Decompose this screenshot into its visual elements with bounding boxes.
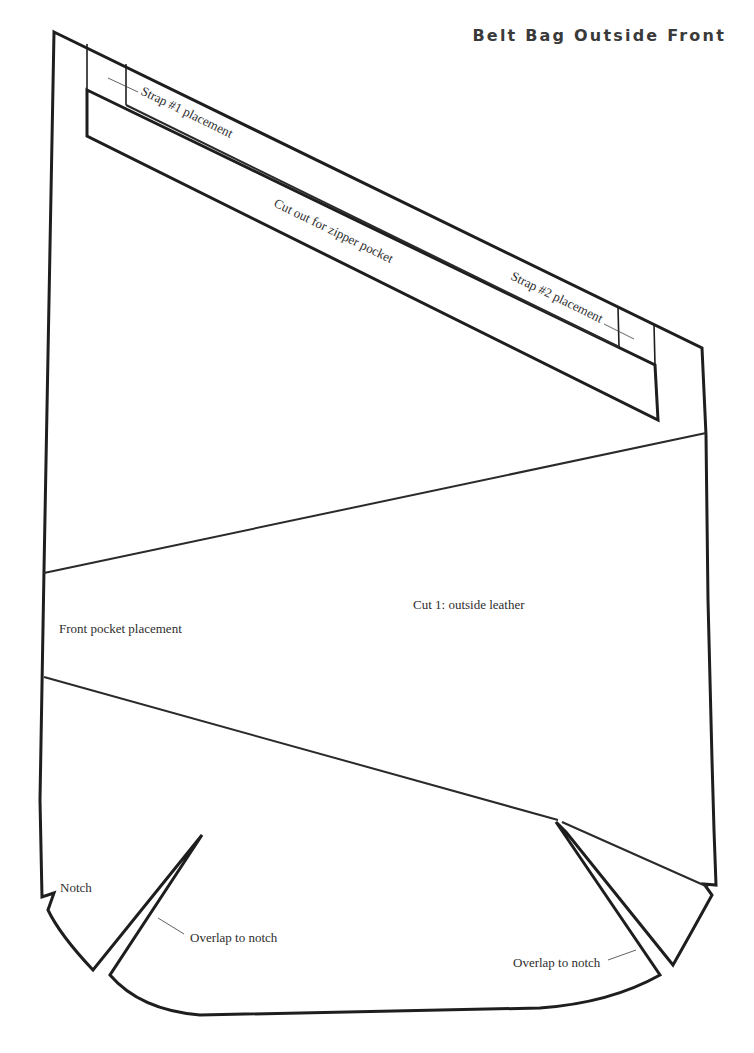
pattern-diagram: Strap #1 placement Cut out for zipper po… — [0, 0, 754, 1053]
strap-band-bottom-edge — [126, 105, 619, 347]
overlap-left-leader — [158, 918, 184, 934]
overlap-left-label: Overlap to notch — [190, 930, 278, 945]
overlap-right-leader — [608, 950, 636, 960]
cut-instruction-label: Cut 1: outside leather — [413, 597, 525, 612]
front-pocket-bottom-line — [44, 677, 558, 820]
overlap-right-label: Overlap to notch — [513, 955, 601, 970]
strap1-leader — [108, 78, 138, 92]
front-pocket-label: Front pocket placement — [59, 621, 182, 636]
front-pocket-top-line — [44, 433, 706, 573]
strap2-box-left-edge — [618, 307, 619, 347]
notch-label: Notch — [60, 880, 92, 895]
pattern-outline — [40, 32, 716, 1015]
strap2-box-right-edge — [654, 324, 655, 365]
